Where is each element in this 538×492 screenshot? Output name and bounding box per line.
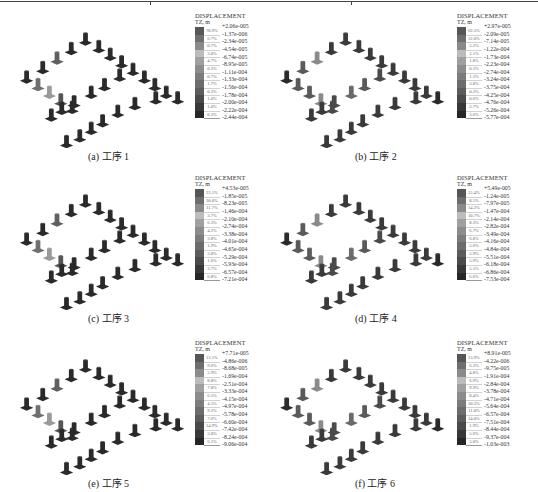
pedestal-model-e: [0, 335, 190, 475]
legend-row: 3.6%-5.77e-004: [457, 111, 537, 119]
pedestal-icon: [310, 378, 323, 391]
pedestal-icon: [60, 297, 73, 310]
pedestal-icon: [408, 405, 421, 418]
pedestal-model-a: [0, 8, 190, 148]
pedestal-icon: [138, 232, 151, 245]
pedestal-icon: [358, 405, 371, 418]
pedestal-icon: [373, 230, 386, 243]
legend-swatch: [195, 407, 204, 415]
panel-caption: (f) 工序 6: [355, 475, 395, 490]
pedestal-icon: [345, 247, 358, 260]
legend-row: 13.9%+8.91e-005-4.22e-006: [457, 354, 537, 362]
legend-row: 1.3%-3.24e-004: [457, 73, 537, 81]
pedestal-icon: [65, 369, 78, 382]
legend-max-value: +8.91e-005: [484, 350, 511, 357]
legend-swatch: [195, 242, 204, 250]
pedestal-icon: [325, 42, 338, 55]
pedestal-icon: [171, 253, 184, 266]
pedestal-icon: [291, 240, 304, 253]
pedestal-icon: [36, 223, 49, 236]
legend-percent: 0.3%: [204, 111, 220, 120]
pedestal-icon: [138, 70, 151, 83]
pedestal-icon: [126, 225, 139, 238]
legend-swatch: [195, 65, 204, 73]
pedestal-icon: [98, 405, 111, 418]
legend-row: 62.5%+2.97e-005-2.09e-005: [457, 27, 537, 35]
pedestal-icon: [345, 449, 358, 462]
pedestal-icon: [148, 78, 161, 91]
pedestal-icon: [85, 247, 98, 260]
legend-row: 10.7%-2.14e-004: [457, 212, 537, 220]
pedestal-icon: [345, 412, 358, 425]
pedestal-icon: [296, 223, 309, 236]
pedestal-icon: [113, 395, 126, 408]
pedestal-icon: [303, 247, 316, 260]
legend-swatch: [195, 354, 204, 362]
pedestal-icon: [280, 397, 293, 410]
pedestal-icon: [333, 456, 346, 469]
legend-row: 14.0%-7.51e-004: [457, 415, 537, 423]
legend-row: 15.4%+5.49e-005-1.24e-005: [457, 189, 537, 197]
legend-swatch: [195, 95, 204, 103]
pedestal-icon: [113, 230, 126, 243]
pedestal-icon: [73, 129, 86, 142]
pedestal-icon: [79, 32, 92, 45]
legend-row: 8.4%-4.71e-004: [457, 392, 537, 400]
legend-value: -5.77e-004: [484, 114, 509, 121]
legend-swatch: [195, 362, 204, 370]
legend-row: 5.9%-5.51e-004: [457, 250, 537, 258]
legend-percent: 6.6%: [466, 273, 482, 282]
top-rule: [0, 1, 538, 2]
legend-row: 5.2%-1.22e-004: [457, 42, 537, 50]
pedestal-icon: [65, 204, 78, 217]
legend-swatch: [457, 430, 466, 438]
legend-value: -9.06e-004: [222, 441, 247, 448]
pedestal-icon: [328, 257, 341, 270]
pedestal-icon: [115, 217, 128, 230]
legend-value: -2.44e-004: [222, 114, 247, 121]
legend-swatch: [195, 35, 204, 43]
pedestal-icon: [386, 63, 399, 76]
pedestal-icon: [45, 270, 58, 283]
pedestal-icon: [67, 422, 80, 435]
pedestal-icon: [398, 397, 411, 410]
pedestal-model-f: [262, 335, 452, 475]
pedestal-icon: [386, 390, 399, 403]
pedestal-icon: [20, 70, 33, 83]
pedestal-icon: [126, 390, 139, 403]
legend-swatch: [457, 204, 466, 212]
legend-swatch: [457, 95, 466, 103]
legend-row: 6.9%-2.84e-004: [457, 377, 537, 385]
pedestal-model-b: [262, 8, 452, 148]
pedestal-icon: [388, 97, 401, 110]
legend-swatch: [195, 250, 204, 258]
legend-row: 3.8%-3.75e-004: [457, 80, 537, 88]
figure-panel-f: DISPLACEMENTTZ, m13.9%+8.91e-005-4.22e-0…: [262, 335, 531, 492]
legend-swatch: [195, 384, 204, 392]
pedestal-icon: [73, 291, 86, 304]
pedestal-icon: [31, 78, 44, 91]
pedestal-icon: [325, 369, 338, 382]
legend-swatch: [195, 265, 204, 273]
pedestal-icon: [85, 449, 98, 462]
legend-swatch: [457, 35, 466, 43]
pedestal-icon: [104, 47, 117, 60]
legend-max-value: +2.97e-005: [484, 23, 511, 30]
legend-swatch: [457, 257, 466, 265]
panel-caption: (d) 工序 4: [355, 310, 397, 325]
legend-swatch: [457, 415, 466, 423]
pedestal-icon: [431, 253, 444, 266]
pedestal-icon: [375, 382, 388, 395]
legend-row: 0.3%-2.74e-004: [457, 65, 537, 73]
legend-swatch: [195, 189, 204, 197]
pedestal-icon: [280, 232, 293, 245]
pedestal-icon: [92, 367, 105, 380]
pedestal-icon: [364, 209, 377, 222]
legend-row: 8.5%-7.97e-005: [457, 197, 537, 205]
pedestal-icon: [375, 55, 388, 68]
pedestal-icon: [138, 397, 151, 410]
pedestal-icon: [373, 68, 386, 81]
legend-swatch: [457, 50, 466, 58]
pedestal-icon: [149, 253, 162, 266]
legend-row: 6.8%-4.16e-004: [457, 235, 537, 243]
